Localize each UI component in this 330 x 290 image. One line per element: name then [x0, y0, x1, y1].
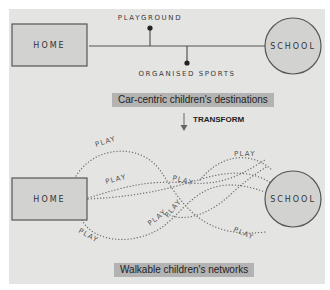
- play-label: PLAY: [77, 227, 100, 245]
- play-paths: [76, 151, 292, 239]
- play-label: PLAY: [105, 173, 128, 186]
- home-label-bottom: HOME: [33, 195, 65, 204]
- top-caption: Car-centric children's destinations: [112, 93, 274, 107]
- sports-dot: [184, 60, 189, 65]
- play-label: PLAY: [234, 150, 256, 158]
- play-path-6: [200, 158, 272, 180]
- play-label: PLAY: [172, 174, 195, 187]
- play-label: PLAY: [232, 226, 255, 242]
- diagram-canvas: HOME PLAYGROUND ORGANISED SPORTS SCHOOL …: [0, 0, 330, 290]
- transform-label: TRANSFORM: [193, 115, 244, 124]
- arrow-head-icon: [181, 125, 188, 131]
- school-label-bottom: SCHOOL: [270, 195, 316, 204]
- playground-dot: [147, 25, 152, 30]
- bottom-caption: Walkable children's networks: [114, 263, 254, 277]
- organised-sports-label: ORGANISED SPORTS: [138, 70, 235, 78]
- playground-label: PLAYGROUND: [118, 14, 182, 22]
- home-label-top: HOME: [33, 41, 65, 50]
- play-label: PLAY: [94, 135, 117, 149]
- school-label-top: SCHOOL: [270, 42, 316, 51]
- play-path-5: [170, 166, 268, 218]
